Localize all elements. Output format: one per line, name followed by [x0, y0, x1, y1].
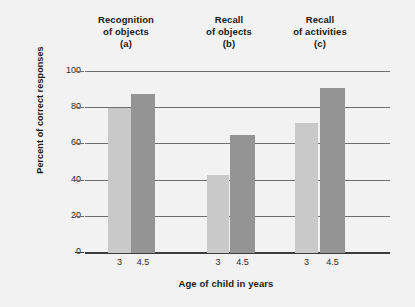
bar-a-age-4.5[interactable]	[131, 94, 155, 253]
x-tick-label-b-4.5: 4.5	[230, 257, 255, 267]
group-header-a-line-2: of objects	[78, 26, 174, 38]
bar-chart-figure: Recognition of objects (a) Recall of obj…	[0, 0, 415, 307]
y-tick-dash-100	[75, 71, 84, 72]
group-header-a-line-3: (a)	[78, 38, 174, 50]
group-header-a: Recognition of objects (a)	[78, 14, 174, 51]
x-tick-label-c-3: 3	[295, 257, 318, 267]
y-tick-dash-40	[75, 180, 84, 181]
group-header-c: Recall of activities (c)	[272, 14, 368, 51]
gridline-100	[85, 71, 390, 72]
group-header-c-line-2: of activities	[272, 26, 368, 38]
x-axis-title: Age of child in years	[60, 278, 392, 289]
y-tick-dash-0	[75, 252, 84, 253]
group-header-a-line-1: Recognition	[78, 14, 174, 26]
x-tick-label-a-4.5: 4.5	[131, 257, 155, 267]
y-axis-title: Percent of correct responses	[35, 20, 45, 200]
y-tick-dash-60	[75, 143, 84, 144]
group-header-c-line-1: Recall	[272, 14, 368, 26]
group-header-c-line-3: (c)	[272, 38, 368, 50]
x-tick-label-b-3: 3	[207, 257, 229, 267]
plot-area: 3 4.5 3 4.5 3 4.5	[85, 71, 390, 253]
y-tick-label-60: 60	[47, 137, 81, 147]
x-tick-label-a-3: 3	[108, 257, 131, 267]
y-tick-label-100: 100	[47, 65, 81, 75]
y-tick-label-80: 80	[47, 101, 81, 111]
y-tick-dash-20	[75, 216, 84, 217]
y-tick-dash-80	[75, 107, 84, 108]
bar-b-age-4.5[interactable]	[230, 135, 255, 253]
group-header-b: Recall of objects (b)	[183, 14, 275, 51]
group-header-b-line-3: (b)	[183, 38, 275, 50]
group-header-b-line-1: Recall	[183, 14, 275, 26]
bar-c-age-4.5[interactable]	[320, 88, 345, 253]
bar-b-age-3[interactable]	[207, 175, 229, 253]
x-tick-label-c-4.5: 4.5	[320, 257, 345, 267]
bar-a-age-3[interactable]	[108, 108, 131, 253]
y-tick-label-0: 0	[47, 246, 81, 256]
group-header-b-line-2: of objects	[183, 26, 275, 38]
bar-c-age-3[interactable]	[295, 123, 318, 253]
